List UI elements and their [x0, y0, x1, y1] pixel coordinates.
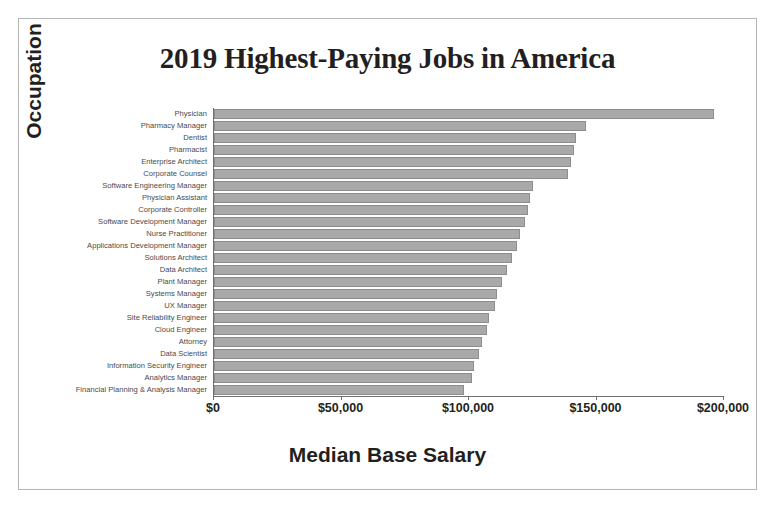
y-axis-tick-label: Corporate Counsel	[143, 169, 207, 178]
bar	[214, 217, 525, 227]
bar	[214, 181, 533, 191]
bar	[214, 121, 586, 131]
y-axis-tick-label: Pharmacist	[169, 145, 207, 154]
y-axis-tick-label: Dentist	[183, 133, 207, 142]
y-axis-tick-label: Pharmacy Manager	[141, 121, 207, 130]
bar-row	[214, 132, 724, 144]
bar-row	[214, 348, 724, 360]
y-axis-tick-label: Solutions Architect	[145, 253, 207, 262]
bar-row	[214, 336, 724, 348]
y-axis-tick-label: Information Security Engineer	[107, 361, 207, 370]
bar	[214, 361, 474, 371]
bar	[214, 133, 576, 143]
y-axis-tick-label: Applications Development Manager	[87, 241, 207, 250]
bar-row	[214, 120, 724, 132]
bar	[214, 289, 497, 299]
y-axis-tick-label: Systems Manager	[146, 289, 207, 298]
y-axis-tick-label: Financial Planning & Analysis Manager	[76, 385, 207, 394]
y-axis-tick-label: Software Engineering Manager	[102, 181, 207, 190]
x-axis-tick-mark	[596, 396, 597, 400]
y-axis-tick-label: Nurse Practitioner	[146, 229, 207, 238]
bar	[214, 205, 528, 215]
bar-row	[214, 360, 724, 372]
y-axis-tick-label: UX Manager	[164, 301, 207, 310]
x-axis-tick-label: $100,000	[408, 401, 528, 415]
bar	[214, 157, 571, 167]
bar	[214, 109, 714, 119]
bar-row	[214, 180, 724, 192]
bar	[214, 385, 464, 395]
bar-row	[214, 264, 724, 276]
bar-row	[214, 144, 724, 156]
bar-row	[214, 276, 724, 288]
bar-row	[214, 312, 724, 324]
bar-row	[214, 240, 724, 252]
y-axis-tick-labels: PhysicianPharmacy ManagerDentistPharmaci…	[40, 108, 210, 396]
bar-row	[214, 372, 724, 384]
chart-title: 2019 Highest-Paying Jobs in America	[18, 42, 757, 75]
x-axis-tick-mark	[723, 396, 724, 400]
bar	[214, 325, 487, 335]
bar	[214, 193, 530, 203]
y-axis-tick-label: Physician Assistant	[142, 193, 207, 202]
x-axis-tick-label: $150,000	[536, 401, 656, 415]
chart-figure: 2019 Highest-Paying Jobs in America Occu…	[0, 0, 780, 507]
bar-row	[214, 288, 724, 300]
y-axis-tick-label: Site Reliability Engineer	[127, 313, 207, 322]
bar-row	[214, 204, 724, 216]
bar	[214, 349, 479, 359]
bar-row	[214, 168, 724, 180]
bar-row	[214, 108, 724, 120]
y-axis-tick-label: Corporate Controller	[138, 205, 207, 214]
plot-area	[213, 108, 724, 396]
bar	[214, 373, 472, 383]
bar	[214, 229, 520, 239]
bar	[214, 253, 512, 263]
bar-row	[214, 192, 724, 204]
x-axis-tick-mark	[468, 396, 469, 400]
bar	[214, 241, 517, 251]
bar-row	[214, 216, 724, 228]
x-axis-tick-mark	[341, 396, 342, 400]
y-axis-tick-label: Data Architect	[160, 265, 207, 274]
y-axis-tick-label: Software Development Manager	[98, 217, 207, 226]
bar-row	[214, 324, 724, 336]
bar	[214, 301, 495, 311]
bar-row	[214, 252, 724, 264]
y-axis-tick-label: Enterprise Architect	[141, 157, 207, 166]
y-axis-tick-label: Attorney	[179, 337, 207, 346]
bar	[214, 145, 574, 155]
x-axis-tick-label: $50,000	[281, 401, 401, 415]
bar	[214, 313, 489, 323]
bar	[214, 265, 507, 275]
y-axis-tick-label: Plant Manager	[158, 277, 207, 286]
y-axis-tick-label: Analytics Manager	[145, 373, 207, 382]
y-axis-tick-label: Cloud Engineer	[155, 325, 207, 334]
y-axis-tick-label: Data Scientist	[160, 349, 207, 358]
x-axis-title: Median Base Salary	[18, 443, 757, 467]
bar-row	[214, 300, 724, 312]
x-axis-tick-label: $0	[153, 401, 273, 415]
y-axis-tick-label: Physician	[175, 109, 208, 118]
bar	[214, 169, 568, 179]
bar-row	[214, 384, 724, 396]
bar-row	[214, 156, 724, 168]
bar-row	[214, 228, 724, 240]
bar	[214, 337, 482, 347]
bar	[214, 277, 502, 287]
x-axis-tick-label: $200,000	[663, 401, 780, 415]
x-axis-tick-mark	[213, 396, 214, 400]
